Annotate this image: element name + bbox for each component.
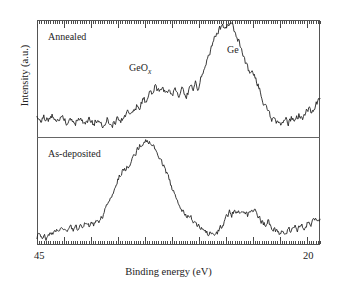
y-axis-label: Intensity (a.u.): [19, 6, 30, 146]
x-tick-label-right: 20: [303, 250, 314, 261]
panel-label-as-deposited: As-deposited: [48, 148, 101, 159]
peak-label-geox-subscript: x: [148, 67, 151, 76]
x-tick-label-left: 45: [34, 250, 45, 261]
peak-label-geox-text: GeO: [129, 62, 148, 73]
peak-label-geox: GeOx: [129, 62, 151, 76]
plot-area: Annealed As-deposited GeOx Ge: [37, 20, 320, 245]
spectrum-trace-as-deposited: [37, 20, 320, 245]
x-axis-label: Binding energy (eV): [0, 266, 337, 277]
peak-label-ge: Ge: [227, 44, 239, 55]
panel-label-annealed: Annealed: [48, 31, 86, 42]
xps-spectrum-figure: Intensity (a.u.) Annealed As-deposited G…: [0, 0, 337, 289]
